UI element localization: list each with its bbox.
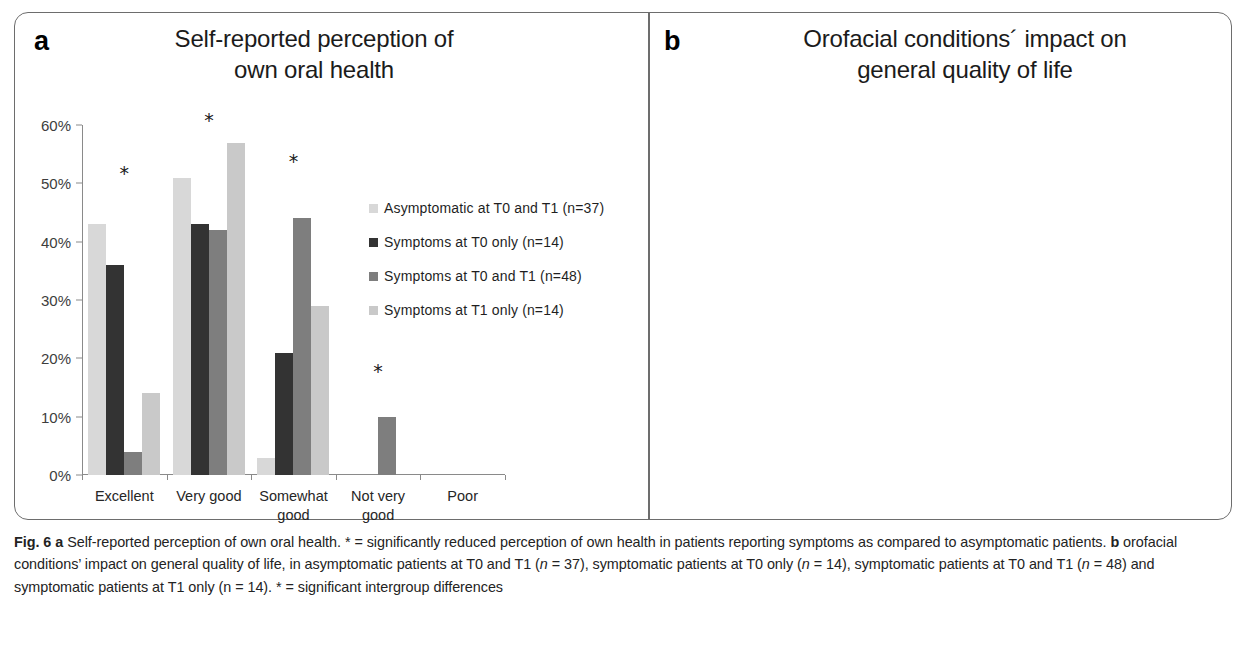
- significance-star: *: [120, 164, 130, 183]
- legend-item: Symptoms at T0 and T1 (n=48): [369, 268, 604, 284]
- bar: [227, 143, 245, 476]
- bar-group-bars: [167, 125, 252, 475]
- legend-swatch-icon: [369, 204, 378, 213]
- caption-n-2: n: [802, 556, 810, 572]
- x-axis-tick-mark: [82, 475, 83, 480]
- x-axis-tick-mark: [251, 475, 252, 480]
- caption-n-3: n: [1082, 556, 1090, 572]
- chart-panel-b: b Orofacial conditions´ impact on genera…: [650, 12, 1232, 520]
- bar: [124, 452, 142, 475]
- x-axis-tick-mark: [336, 475, 337, 480]
- chart-title-b-line1: Orofacial conditions´ impact on: [700, 24, 1230, 55]
- x-axis-tick-mark: [505, 475, 506, 480]
- panel-label-a: a: [34, 28, 49, 55]
- x-axis-tick-mark: [420, 475, 421, 480]
- caption-ref-a: a: [55, 534, 63, 550]
- x-axis-tick-label: Poor: [408, 487, 518, 506]
- x-axis-tick-label-line: good: [323, 506, 433, 525]
- bar: [88, 224, 106, 475]
- bar: [142, 393, 160, 475]
- legend-swatch-icon: [369, 238, 378, 247]
- bar-group: Somewhatgood: [251, 125, 336, 475]
- legend-a: Asymptomatic at T0 and T1 (n=37)Symptoms…: [369, 200, 604, 336]
- bar: [173, 178, 191, 476]
- caption-text-1: Self-reported perception of own oral hea…: [63, 534, 1110, 550]
- chart-title-a: Self-reported perception of own oral hea…: [74, 24, 554, 85]
- significance-star: *: [373, 362, 383, 381]
- bar: [311, 306, 329, 475]
- legend-swatch-icon: [369, 306, 378, 315]
- legend-item: Asymptomatic at T0 and T1 (n=37): [369, 200, 604, 216]
- bar: [293, 218, 311, 475]
- legend-item-label: Symptoms at T0 only (n=14): [384, 234, 564, 250]
- legend-item: Symptoms at T0 only (n=14): [369, 234, 604, 250]
- significance-star: *: [289, 152, 299, 171]
- figure-root: a Self-reported perception of own oral h…: [0, 0, 1246, 646]
- bar: [275, 353, 293, 476]
- legend-item: Symptoms at T1 only (n=14): [369, 302, 604, 318]
- bar: [209, 230, 227, 475]
- legend-item-label: Symptoms at T0 and T1 (n=48): [384, 268, 582, 284]
- figure-caption: Fig. 6 a Self-reported perception of own…: [14, 531, 1230, 598]
- x-axis-tick-mark: [167, 475, 168, 480]
- chart-title-a-line2: own oral health: [74, 55, 554, 86]
- bar: [106, 265, 124, 475]
- x-axis-tick-label-line: Poor: [408, 487, 518, 506]
- significance-star: *: [204, 111, 214, 130]
- caption-n-1: n: [540, 556, 548, 572]
- bar: [191, 224, 209, 475]
- bar: [378, 417, 396, 475]
- bar: [257, 458, 275, 476]
- caption-text-4: = 14), symptomatic patients at T0 and T1…: [810, 556, 1082, 572]
- bar-group-bars: [251, 125, 336, 475]
- caption-ref-b: b: [1110, 534, 1119, 550]
- legend-swatch-icon: [369, 272, 378, 281]
- caption-fig-number: Fig. 6: [14, 534, 51, 550]
- legend-item-label: Asymptomatic at T0 and T1 (n=37): [384, 200, 604, 216]
- chart-title-b: Orofacial conditions´ impact on general …: [700, 24, 1230, 85]
- chart-title-b-line2: general quality of life: [700, 55, 1230, 86]
- chart-panel-a: a Self-reported perception of own oral h…: [14, 12, 649, 520]
- bar-group: Very good: [167, 125, 252, 475]
- legend-item-label: Symptoms at T1 only (n=14): [384, 302, 564, 318]
- panel-label-b: b: [664, 28, 681, 55]
- caption-text-3: = 37), symptomatic patients at T0 only (: [548, 556, 802, 572]
- chart-title-a-line1: Self-reported perception of: [74, 24, 554, 55]
